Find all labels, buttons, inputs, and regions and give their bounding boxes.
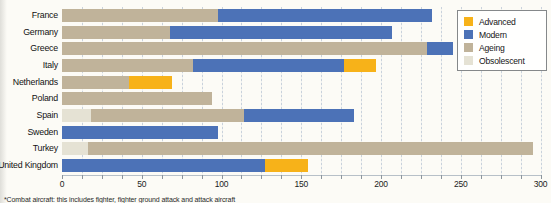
x-axis-tick <box>341 175 342 179</box>
bar-segment-modern <box>193 59 345 72</box>
legend-label: Obsolescent <box>479 56 525 66</box>
bar-segment-advanced <box>344 59 376 72</box>
bar-segment-obsolescent <box>62 142 88 155</box>
bar-segment-ageing <box>88 142 533 155</box>
category-label: Netherlands <box>0 76 58 89</box>
legend-item: Ageing <box>464 41 541 54</box>
legend-label: Ageing <box>479 43 505 53</box>
bar-segment-ageing <box>62 42 427 55</box>
legend-swatch-ageing <box>464 43 473 52</box>
x-axis-tick <box>441 175 442 179</box>
bar-segment-ageing <box>62 92 212 105</box>
category-label: France <box>0 9 58 22</box>
x-tick-label: 50 <box>137 179 146 189</box>
legend-item: Obsolescent <box>464 54 541 67</box>
x-axis-tick <box>182 175 183 179</box>
x-tick-label: 250 <box>454 179 468 189</box>
legend-item: Modern <box>464 28 541 41</box>
category-label: Poland <box>0 92 58 105</box>
x-axis-tick <box>261 175 262 179</box>
bar-segment-ageing <box>91 109 244 122</box>
legend-swatch-obsolescent <box>464 56 473 65</box>
combat-aircraft-stacked-bar-chart: 050100150200250300 FranceGermanyGreeceIt… <box>0 0 551 203</box>
category-label: Turkey <box>0 142 58 155</box>
x-axis-tick <box>481 175 482 179</box>
bar-segment-ageing <box>62 26 170 39</box>
footnote: *Combat aircraft: this includes fighter,… <box>4 196 235 203</box>
x-axis-tick <box>202 175 203 179</box>
x-axis-tick <box>122 175 123 179</box>
x-tick-label: 100 <box>215 179 229 189</box>
bar-segment-modern <box>62 126 218 139</box>
x-axis-tick <box>162 175 163 179</box>
bar-segment-modern <box>170 26 392 39</box>
x-axis-tick <box>102 175 103 179</box>
legend-swatch-modern <box>464 30 473 39</box>
category-label: Spain <box>0 109 58 122</box>
legend-label: Advanced <box>479 17 516 27</box>
x-axis-tick <box>82 175 83 179</box>
bar-segment-obsolescent <box>62 109 91 122</box>
bar-segment-modern <box>62 159 265 172</box>
category-label: Greece <box>0 42 58 55</box>
bar-segment-ageing <box>62 59 193 72</box>
x-tick-label: 200 <box>374 179 388 189</box>
x-axis-tick <box>281 175 282 179</box>
x-tick-label: 300 <box>534 179 548 189</box>
legend-label: Modern <box>479 30 507 40</box>
bar-segment-modern <box>244 109 354 122</box>
category-label: Italy <box>0 59 58 72</box>
bar-segment-modern <box>427 42 453 55</box>
x-axis-tick <box>401 175 402 179</box>
legend: AdvancedModernAgeingObsolescent <box>457 10 547 71</box>
legend-swatch-advanced <box>464 17 473 26</box>
bar-segment-advanced <box>265 159 308 172</box>
x-axis-tick <box>521 175 522 179</box>
category-label: Sweden <box>0 126 58 139</box>
bar-segment-ageing <box>62 9 218 22</box>
category-label: United Kingdom <box>0 159 58 172</box>
bar-segment-modern <box>218 9 432 22</box>
x-axis-tick <box>501 175 502 179</box>
x-axis-tick <box>421 175 422 179</box>
x-axis-tick <box>321 175 322 179</box>
x-tick-label: 150 <box>294 179 308 189</box>
x-axis-tick <box>361 175 362 179</box>
x-tick-label: 0 <box>60 179 65 189</box>
bar-segment-ageing <box>62 76 129 89</box>
x-axis-tick <box>241 175 242 179</box>
category-label: Germany <box>0 26 58 39</box>
bar-segment-advanced <box>129 76 172 89</box>
legend-item: Advanced <box>464 15 541 28</box>
